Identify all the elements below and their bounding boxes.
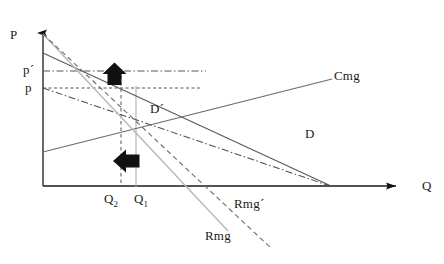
economics-diagram: P Q p´ p Q2 Q1 D D´ Cmg Rmg Rmg´: [0, 0, 444, 264]
marginal-revenue-shifted-curve-label: Rmg´: [234, 197, 264, 210]
price-prime-text: p: [23, 62, 30, 77]
demand-curve: [43, 53, 331, 186]
demand-shifted-curve-label: D´: [150, 102, 164, 115]
marginal-revenue-curve-label: Rmg: [205, 229, 231, 242]
quantity-q2-subscript: 2: [114, 199, 119, 209]
y-axis-label: P: [10, 28, 17, 41]
price-text: p: [25, 80, 32, 95]
price-prime-mark: ´: [30, 62, 34, 77]
demand-curve-label: D: [305, 127, 315, 140]
quantity-q1-text: Q: [134, 191, 144, 206]
quantity-q2-text: Q: [104, 191, 114, 206]
price-label: p: [25, 81, 32, 94]
marginal-cost-curve: [43, 79, 332, 152]
quantity-q2-label: Q2: [104, 192, 118, 209]
demand-shifted-curve: [43, 88, 330, 186]
marginal-cost-curve-label: Cmg: [334, 69, 360, 82]
quantity-q1-label: Q1: [134, 192, 148, 209]
x-axis-label: Q: [422, 179, 432, 192]
quantity-q1-subscript: 1: [144, 199, 149, 209]
price-prime-label: p´: [23, 63, 34, 76]
marginal-revenue-shifted-curve: [43, 34, 272, 249]
diagram-canvas: [0, 0, 444, 264]
